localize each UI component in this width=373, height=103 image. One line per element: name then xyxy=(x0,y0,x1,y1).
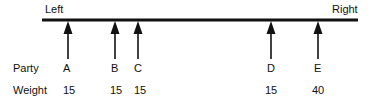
weight-d-value: 15 xyxy=(265,84,277,96)
party-row-label: Party xyxy=(13,62,39,74)
weight-row-label: Weight xyxy=(13,84,47,96)
weight-a-value: 15 xyxy=(63,84,75,96)
right-label: Right xyxy=(332,3,358,15)
weight-b-value: 15 xyxy=(110,84,122,96)
party-a-label: A xyxy=(63,62,70,74)
arrow-d-icon xyxy=(267,21,276,59)
weight-c-value: 15 xyxy=(134,84,146,96)
arrow-b-icon xyxy=(111,21,120,59)
party-d-label: D xyxy=(267,62,275,74)
weight-e-value: 40 xyxy=(312,84,324,96)
arrow-a-icon xyxy=(64,21,73,59)
arrow-e-icon xyxy=(314,21,323,59)
party-e-label: E xyxy=(314,62,321,74)
left-label: Left xyxy=(45,3,63,15)
arrow-c-icon xyxy=(134,21,143,59)
party-c-label: C xyxy=(134,62,142,74)
party-b-label: B xyxy=(111,62,118,74)
